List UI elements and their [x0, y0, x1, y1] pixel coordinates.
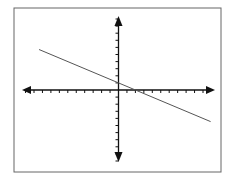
coordinate-plane [0, 0, 230, 180]
